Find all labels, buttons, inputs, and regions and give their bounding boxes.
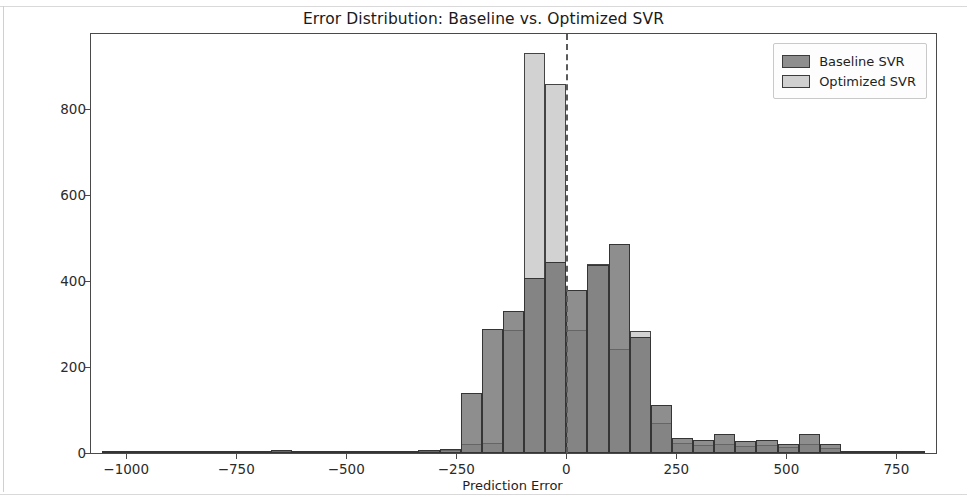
x-axis-tick-label: 750 xyxy=(884,461,910,477)
y-axis-tick-label: 800 xyxy=(60,101,86,117)
histogram-bar-baseline xyxy=(376,451,397,453)
y-axis-tick-label: 400 xyxy=(60,273,86,289)
y-axis-tick-label: 200 xyxy=(60,359,86,375)
figure-canvas: Error Distribution: Baseline vs. Optimiz… xyxy=(0,0,967,498)
histogram-bar-baseline xyxy=(207,451,228,453)
x-axis-tick xyxy=(126,453,127,459)
histogram-bar-baseline xyxy=(714,434,735,453)
histogram-bar-baseline xyxy=(249,451,270,453)
legend-label: Optimized SVR xyxy=(819,74,916,89)
histogram-bar-baseline xyxy=(524,278,545,453)
histogram-bar-baseline xyxy=(123,451,144,453)
y-axis-tick-label: 0 xyxy=(77,445,86,461)
histogram-bar-baseline xyxy=(883,451,904,453)
figure-left-border xyxy=(3,6,4,492)
x-axis-tick xyxy=(236,453,237,459)
histogram-bar-baseline xyxy=(545,262,566,453)
histogram-bar-baseline xyxy=(228,451,249,453)
histogram-bar-baseline xyxy=(587,265,608,453)
x-axis-tick xyxy=(896,453,897,459)
histogram-bar-baseline xyxy=(418,450,439,453)
x-axis-tick-label: 500 xyxy=(773,461,799,477)
histogram-bar-baseline xyxy=(756,440,777,453)
x-axis-tick-label: 0 xyxy=(562,461,571,477)
histogram-bar-baseline xyxy=(735,441,756,453)
histogram-bar-baseline xyxy=(186,451,207,453)
histogram-bar-baseline xyxy=(799,434,820,453)
histogram-bar-baseline xyxy=(841,451,862,453)
histogram-bar-baseline xyxy=(313,451,334,453)
chart-title: Error Distribution: Baseline vs. Optimiz… xyxy=(0,10,967,28)
x-axis-tick xyxy=(346,453,347,459)
histogram-bar-baseline xyxy=(609,244,630,453)
legend-swatch-baseline-icon xyxy=(782,55,810,68)
histogram-bar-baseline xyxy=(672,438,693,453)
histogram-bar-baseline xyxy=(820,444,841,453)
histogram-bar-baseline xyxy=(102,451,123,453)
histogram-bar-baseline xyxy=(397,451,418,453)
histogram-bar-baseline xyxy=(165,451,186,453)
histogram-bar-baseline xyxy=(862,451,883,453)
histogram-bar-baseline xyxy=(440,449,461,453)
histogram-bar-baseline xyxy=(904,451,925,453)
x-axis-tick-label: 250 xyxy=(663,461,689,477)
histogram-bar-baseline xyxy=(503,311,524,453)
histogram-bar-baseline xyxy=(271,450,292,453)
histogram-bar-baseline xyxy=(566,290,587,453)
x-axis-tick xyxy=(456,453,457,459)
chart-legend[interactable]: Baseline SVROptimized SVR xyxy=(773,43,927,99)
histogram-bar-baseline xyxy=(334,451,355,453)
histogram-bar-baseline xyxy=(693,440,714,453)
x-axis-tick xyxy=(786,453,787,459)
legend-label: Baseline SVR xyxy=(819,54,904,69)
legend-item-baseline[interactable]: Baseline SVR xyxy=(782,51,916,71)
histogram-bar-baseline xyxy=(292,451,313,453)
legend-item-optimized[interactable]: Optimized SVR xyxy=(782,71,916,91)
x-axis-tick-label: −1000 xyxy=(103,461,149,477)
figure-top-border xyxy=(0,6,967,7)
x-axis-tick-label: −250 xyxy=(438,461,475,477)
histogram-bar-baseline xyxy=(461,393,482,453)
histogram-bar-baseline xyxy=(355,451,376,453)
histogram-bar-baseline xyxy=(144,451,165,453)
y-axis-tick-label: 600 xyxy=(60,187,86,203)
x-axis-tick xyxy=(566,453,567,459)
histogram-bar-baseline xyxy=(651,405,672,453)
plot-area: 0200400600800−1000−750−500−2500250500750… xyxy=(90,33,937,454)
legend-swatch-optimized-icon xyxy=(782,75,810,88)
x-axis-tick xyxy=(676,453,677,459)
histogram-bar-baseline xyxy=(630,337,651,453)
x-axis-tick-label: −500 xyxy=(328,461,365,477)
figure-bottom-border xyxy=(0,494,967,495)
zero-reference-line-icon xyxy=(566,34,568,453)
x-axis-label: Prediction Error xyxy=(90,478,935,493)
histogram-bar-baseline xyxy=(778,444,799,453)
x-axis-tick-label: −750 xyxy=(218,461,255,477)
histogram-bar-baseline xyxy=(482,329,503,453)
